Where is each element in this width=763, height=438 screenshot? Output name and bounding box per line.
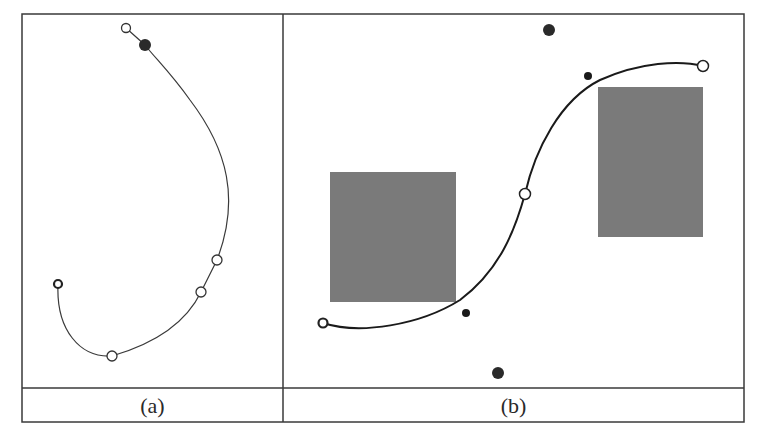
- waypoint-icon: [520, 189, 531, 200]
- waypoint-icon: [212, 255, 222, 265]
- end-point-icon: [698, 61, 709, 72]
- figure-canvas: [0, 0, 763, 438]
- waypoint-icon: [107, 351, 117, 361]
- caption-a: (a): [22, 389, 283, 422]
- waypoint-icon: [196, 287, 206, 297]
- trajectory-curve-a: [58, 28, 229, 356]
- panel-b: [319, 24, 709, 379]
- control-point-small-icon: [462, 309, 470, 317]
- control-point-large-icon: [543, 24, 555, 36]
- filled-point-icon: [139, 39, 151, 51]
- obstacle-left: [330, 172, 456, 302]
- obstacle-right: [598, 87, 703, 237]
- control-point-small-icon: [584, 72, 592, 80]
- panel-a: [54, 24, 229, 362]
- end-point-icon: [122, 24, 131, 33]
- start-point-icon: [54, 280, 62, 288]
- control-point-large-icon: [492, 367, 504, 379]
- start-point-icon: [319, 319, 328, 328]
- caption-b: (b): [283, 389, 744, 422]
